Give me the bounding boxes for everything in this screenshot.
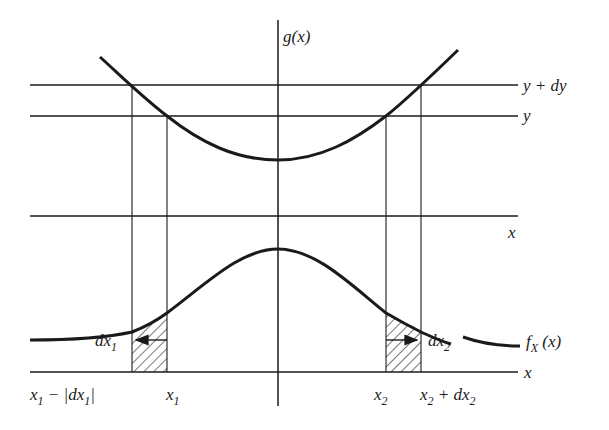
label-dx2: dx2 [428,331,450,354]
transformation-diagram: g(x) y + dy y x x fX (x) dx1 dx2 x1 − |d… [0,0,609,430]
tick-x2: x2 [373,385,388,408]
shaded-strip-left [132,300,167,372]
label-x-upper: x [507,223,516,242]
tick-x2-plus-dx2: x2 + dx2 [419,385,476,408]
tick-x1: x1 [165,385,180,408]
fx-curve-tail [463,337,520,346]
label-y: y [521,106,531,125]
label-y-plus-dy: y + dy [521,76,567,95]
g-curve [100,50,458,160]
label-fx: fX (x) [526,332,562,355]
label-x-lower: x [523,363,532,382]
shaded-strip-right [386,300,421,372]
tick-x1-minus-dx1: x1 − |dx1| [29,385,95,408]
g-axis-label: g(x) [283,27,311,46]
